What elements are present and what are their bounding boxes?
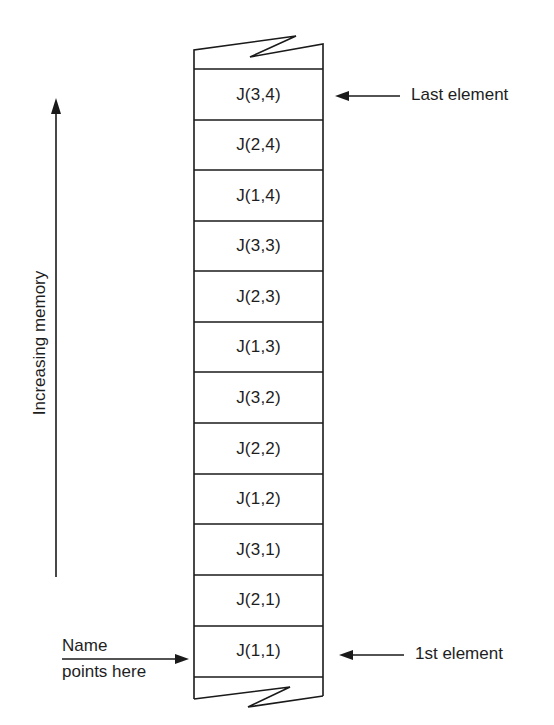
points-here-label: points here: [62, 662, 146, 682]
cell-j-2-2: J(2,2): [194, 424, 323, 474]
cell-j-2-4: J(2,4): [194, 120, 323, 170]
first-element-label: 1st element: [415, 644, 503, 664]
last-element-label: Last element: [411, 85, 508, 105]
top-break-shape: [194, 36, 323, 69]
name-label: Name: [62, 636, 107, 656]
cell-j-2-1: J(2,1): [194, 575, 323, 625]
cell-j-1-1: J(1,1): [194, 626, 323, 676]
cell-j-3-3: J(3,3): [194, 221, 323, 271]
cell-j-1-2: J(1,2): [194, 474, 323, 524]
cell-j-1-3: J(1,3): [194, 322, 323, 372]
bottom-break-shape: [194, 687, 323, 707]
axis-arrowhead-icon: [51, 98, 61, 114]
cell-j-2-3: J(2,3): [194, 272, 323, 322]
cell-j-3-4: J(3,4): [194, 70, 323, 120]
name-arrowhead-icon: [175, 654, 189, 664]
first-element-arrowhead-icon: [339, 650, 353, 660]
last-element-arrowhead-icon: [335, 91, 349, 101]
cell-j-3-1: J(3,1): [194, 525, 323, 575]
increasing-memory-label: Increasing memory: [30, 255, 50, 431]
cell-j-3-2: J(3,2): [194, 373, 323, 423]
cell-j-1-4: J(1,4): [194, 171, 323, 221]
